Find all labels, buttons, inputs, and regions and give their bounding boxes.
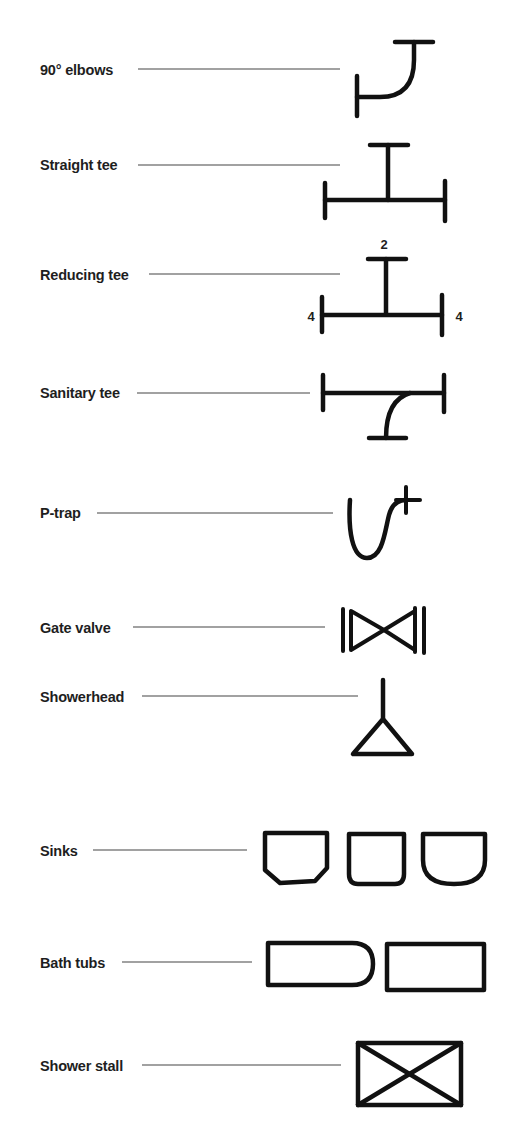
- item-straight-tee: Straight tee: [40, 145, 445, 221]
- elbow-90-icon: [357, 42, 433, 116]
- label-gate-valve: Gate valve: [40, 620, 111, 636]
- bathtub-rounded-icon: [268, 943, 373, 985]
- label-90-elbows: 90° elbows: [40, 62, 113, 78]
- label-reducing-tee: Reducing tee: [40, 267, 129, 283]
- item-sinks: Sinks: [40, 833, 485, 884]
- size-label-left: 4: [307, 309, 315, 324]
- gate-valve-icon: [343, 608, 424, 653]
- sink-oval-front-icon: [423, 834, 485, 884]
- item-showerhead: Showerhead: [40, 680, 412, 754]
- label-bath-tubs: Bath tubs: [40, 955, 105, 971]
- item-gate-valve: Gate valve: [40, 608, 424, 653]
- item-bath-tubs: Bath tubs: [40, 943, 484, 990]
- bath-tubs-icon: [268, 943, 484, 990]
- item-sanitary-tee: Sanitary tee: [40, 375, 444, 438]
- item-reducing-tee: Reducing tee 2 4 4: [40, 237, 463, 335]
- label-sinks: Sinks: [40, 843, 78, 859]
- item-shower-stall: Shower stall: [40, 1043, 461, 1105]
- bathtub-rectangular-icon: [387, 944, 484, 990]
- label-p-trap: P-trap: [40, 505, 81, 521]
- straight-tee-icon: [325, 145, 445, 221]
- size-label-right: 4: [455, 309, 463, 324]
- p-trap-icon: [350, 487, 420, 558]
- sink-chamfered-icon: [265, 833, 327, 883]
- label-shower-stall: Shower stall: [40, 1058, 123, 1074]
- showerhead-icon: [353, 680, 412, 754]
- plumbing-symbols-diagram: 90° elbows Straight tee Reducing tee: [0, 0, 520, 1134]
- sink-rounded-corner-icon: [349, 834, 404, 884]
- sanitary-tee-icon: [323, 375, 444, 438]
- label-sanitary-tee: Sanitary tee: [40, 385, 120, 401]
- reducing-tee-icon: [322, 259, 442, 335]
- item-90-elbows: 90° elbows: [40, 42, 433, 116]
- shower-stall-icon: [358, 1043, 461, 1105]
- label-straight-tee: Straight tee: [40, 157, 117, 173]
- label-showerhead: Showerhead: [40, 689, 124, 705]
- item-p-trap: P-trap: [40, 487, 420, 558]
- size-label-top: 2: [380, 237, 387, 252]
- sinks-icon: [265, 833, 485, 884]
